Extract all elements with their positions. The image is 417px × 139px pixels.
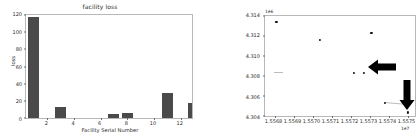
scatter-x-offset-text: 1e7 [401, 126, 409, 131]
bar-facility-1 [28, 17, 39, 118]
scatter-axes [264, 15, 416, 117]
bar-chart-panel: facility loss loss Facility Serial Numbe… [0, 0, 209, 139]
y-tick-label: 0 [19, 116, 22, 122]
x-tick-label: 1.5568 [265, 118, 283, 124]
annotation-arrows-layer [265, 16, 415, 116]
y-tick-label: 4.314 [246, 12, 260, 18]
x-tick-label: 2 [45, 120, 48, 126]
bar-chart-y-ticks: 120 100 80 60 40 20 0 [4, 14, 22, 119]
bar-facility-12 [188, 103, 192, 118]
scatter-y-offset-text: 1e6 [265, 9, 273, 14]
y-tick-label: 80 [16, 46, 22, 52]
x-tick-label: 8 [125, 120, 128, 126]
scatter-chart-panel: 1e6 4.314 4.312 4.310 4.308 4.306 4.304 [209, 0, 417, 139]
x-tick-label: 10 [150, 120, 156, 126]
x-tick-label: 1.5574 [379, 118, 397, 124]
y-tick-label: 60 [16, 64, 22, 70]
bar-chart-x-ticks: 2 4 6 8 10 12 [25, 120, 193, 128]
left-pointing-arrow [368, 60, 396, 75]
y-tick-label: 4.304 [246, 114, 260, 120]
x-tick-label: 1.5571 [322, 118, 340, 124]
y-tick-label: 20 [16, 98, 22, 104]
y-tick-label: 4.306 [246, 94, 260, 100]
x-tick-label: 1.5572 [341, 118, 359, 124]
y-tick-label: 4.308 [246, 73, 260, 79]
x-tick-label: 4 [71, 120, 74, 126]
x-tick-label: 6 [98, 120, 101, 126]
y-tick-label: 4.312 [246, 32, 260, 38]
bar-facility-7 [122, 113, 133, 118]
bar-chart-plot-area [26, 15, 192, 118]
down-pointing-arrow [400, 80, 415, 110]
scatter-plot-area [265, 16, 415, 116]
scatter-x-ticks: 1.5568 1.5569 1.5570 1.5571 1.5572 1.557… [264, 118, 416, 126]
figure-root: facility loss loss Facility Serial Numbe… [0, 0, 417, 139]
y-tick-label: 100 [12, 29, 22, 35]
x-tick-label: 12 [177, 120, 183, 126]
x-tick-label: 1.5570 [303, 118, 321, 124]
y-tick-label: 120 [12, 11, 22, 17]
x-tick-label: 1.5573 [360, 118, 378, 124]
x-tick-label: 1.5569 [284, 118, 302, 124]
bar-chart-title: facility loss [30, 3, 170, 10]
x-tick-label: 1.5575 [398, 118, 416, 124]
scatter-y-ticks: 4.314 4.312 4.310 4.308 4.306 4.304 [235, 15, 260, 117]
y-tick-label: 40 [16, 81, 22, 87]
bar-facility-10 [162, 93, 173, 118]
bar-facility-6 [108, 114, 119, 118]
y-tick-label: 4.310 [246, 53, 260, 59]
bar-chart-axes [25, 14, 193, 119]
bar-facility-3 [55, 107, 66, 118]
